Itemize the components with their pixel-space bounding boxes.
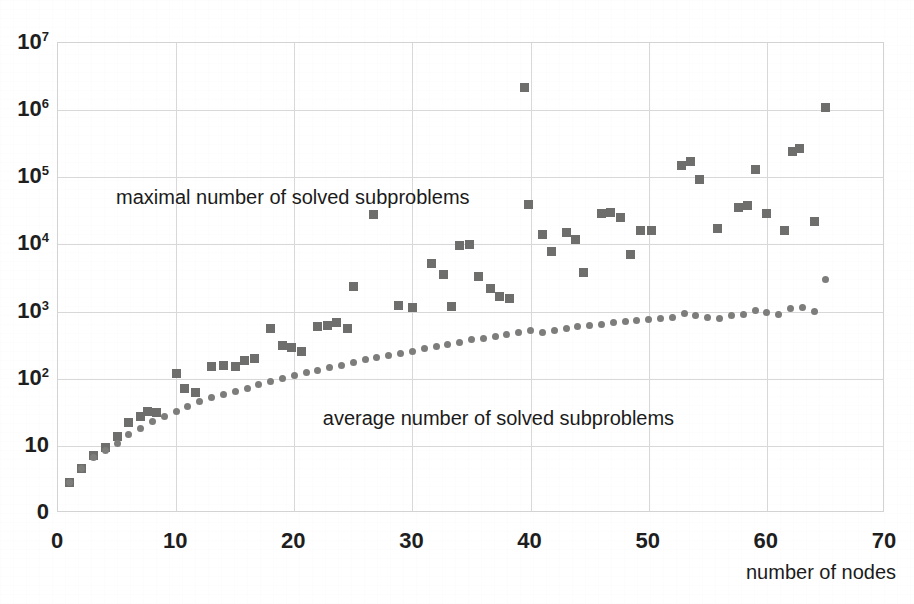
data-point-series-2 — [563, 325, 570, 332]
data-point-series-2 — [444, 341, 451, 348]
data-point-series-2 — [173, 408, 180, 415]
data-point-series-2 — [114, 440, 121, 447]
data-point-series-1 — [124, 418, 133, 427]
data-point-series-2 — [456, 339, 463, 346]
y-axis-tick-label: 10 — [25, 434, 49, 456]
data-point-series-2 — [184, 403, 191, 410]
data-point-series-2 — [610, 319, 617, 326]
data-point-series-2 — [752, 307, 759, 314]
data-point-series-1 — [647, 226, 656, 235]
data-point-series-2 — [645, 316, 652, 323]
data-point-series-1 — [219, 361, 228, 370]
gridline-horizontal — [58, 177, 883, 178]
data-point-series-1 — [332, 318, 341, 327]
data-point-series-1 — [240, 356, 249, 365]
data-point-series-1 — [547, 247, 556, 256]
y-axis-tick-label: 106 — [17, 98, 49, 120]
data-point-series-1 — [695, 175, 704, 184]
data-point-series-2 — [373, 354, 380, 361]
data-point-series-2 — [551, 327, 558, 334]
data-point-series-2 — [503, 331, 510, 338]
data-point-series-2 — [267, 378, 274, 385]
data-point-series-1 — [713, 224, 722, 233]
gridline-vertical — [767, 43, 768, 511]
data-point-series-2 — [669, 314, 676, 321]
data-point-series-1 — [394, 301, 403, 310]
data-point-series-2 — [633, 317, 640, 324]
data-point-series-1 — [821, 103, 830, 112]
data-point-series-2 — [279, 375, 286, 382]
data-point-series-1 — [571, 235, 580, 244]
x-axis-tick-label: 30 — [399, 530, 423, 552]
data-point-series-1 — [626, 250, 635, 259]
data-point-series-2 — [220, 391, 227, 398]
gridline-horizontal — [58, 110, 883, 111]
data-point-series-2 — [303, 369, 310, 376]
data-point-series-2 — [385, 352, 392, 359]
data-point-series-1 — [616, 213, 625, 222]
data-point-series-2 — [350, 359, 357, 366]
data-point-series-2 — [515, 329, 522, 336]
gridline-vertical — [176, 43, 177, 511]
data-point-series-2 — [799, 304, 806, 311]
data-point-series-1 — [439, 270, 448, 279]
x-axis-title: number of nodes — [746, 562, 896, 582]
data-point-series-1 — [686, 157, 695, 166]
data-point-series-2 — [681, 310, 688, 317]
data-point-series-1 — [323, 321, 332, 330]
log-scatter-chart: 107106105104103102100 010203040506070 ma… — [0, 0, 914, 604]
data-point-series-2 — [704, 314, 711, 321]
gridline-vertical — [531, 43, 532, 511]
data-point-series-1 — [505, 294, 514, 303]
data-point-series-1 — [579, 268, 588, 277]
data-point-series-2 — [692, 312, 699, 319]
data-point-series-1 — [524, 200, 533, 209]
data-point-series-1 — [780, 226, 789, 235]
series-label: average number of solved subproblems — [323, 408, 674, 428]
gridline-vertical — [294, 43, 295, 511]
data-point-series-2 — [527, 327, 534, 334]
data-point-series-2 — [208, 394, 215, 401]
data-point-series-1 — [751, 165, 760, 174]
data-point-series-1 — [486, 284, 495, 293]
y-axis-tick-label: 104 — [17, 232, 49, 254]
data-point-series-2 — [255, 381, 262, 388]
data-point-series-2 — [161, 413, 168, 420]
data-point-series-2 — [421, 345, 428, 352]
data-point-series-2 — [125, 431, 132, 438]
data-point-series-2 — [409, 348, 416, 355]
x-axis-tick-label: 50 — [635, 530, 659, 552]
y-axis-tick-label: 107 — [17, 31, 49, 53]
data-point-series-1 — [250, 354, 259, 363]
x-axis-tick-label: 70 — [872, 530, 896, 552]
data-point-series-1 — [636, 226, 645, 235]
data-point-series-2 — [232, 388, 239, 395]
data-point-series-2 — [338, 362, 345, 369]
data-point-series-2 — [480, 335, 487, 342]
data-point-series-2 — [822, 276, 829, 283]
data-point-series-2 — [433, 343, 440, 350]
x-axis-tick-label: 20 — [281, 530, 305, 552]
x-axis-tick-label: 10 — [163, 530, 187, 552]
data-point-series-2 — [740, 311, 747, 318]
data-point-series-1 — [606, 208, 615, 217]
data-point-series-2 — [314, 367, 321, 374]
x-axis-tick-label: 60 — [754, 530, 778, 552]
data-point-series-1 — [743, 201, 752, 210]
data-point-series-1 — [343, 324, 352, 333]
data-point-series-1 — [180, 384, 189, 393]
data-point-series-2 — [811, 308, 818, 315]
data-point-series-1 — [465, 240, 474, 249]
data-point-series-1 — [474, 272, 483, 281]
data-point-series-1 — [287, 343, 296, 352]
data-point-series-2 — [468, 336, 475, 343]
y-axis-tick-label: 103 — [17, 300, 49, 322]
data-point-series-1 — [447, 302, 456, 311]
series-label: maximal number of solved subproblems — [116, 187, 470, 207]
data-point-series-1 — [313, 322, 322, 331]
data-point-series-1 — [538, 230, 547, 239]
data-point-series-2 — [492, 333, 499, 340]
data-point-series-1 — [795, 144, 804, 153]
data-point-series-1 — [408, 303, 417, 312]
data-point-series-1 — [266, 324, 275, 333]
